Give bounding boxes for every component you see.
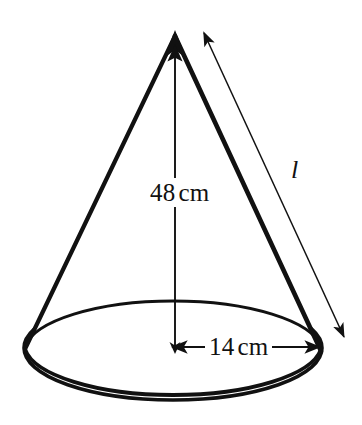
radius-label: 14cm [205, 333, 272, 360]
height-label: 48cm [147, 178, 212, 207]
height-value: 48 [150, 179, 175, 206]
slant-height-label: l [291, 157, 298, 183]
cone-figure: 48cm 14cm l [0, 0, 362, 425]
height-unit: cm [178, 179, 209, 206]
radius-unit: cm [237, 333, 268, 360]
cone-body-fill [25, 33, 321, 395]
cone-drawing-canvas [0, 0, 362, 425]
radius-value: 14 [209, 333, 234, 360]
